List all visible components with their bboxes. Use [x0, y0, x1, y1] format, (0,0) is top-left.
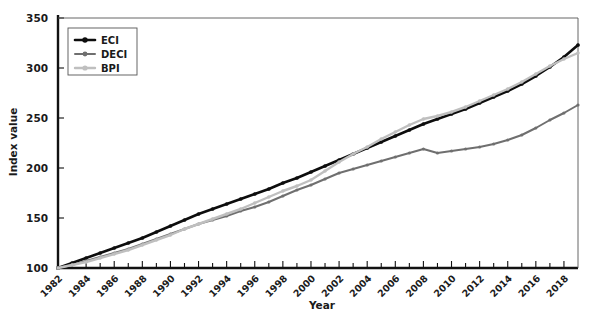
- data-point-eci: [422, 122, 426, 126]
- x-axis-tick-label: 2010: [431, 272, 458, 299]
- data-point-eci: [267, 187, 271, 191]
- data-point-bpi: [337, 160, 341, 164]
- data-point-eci: [295, 176, 299, 180]
- data-point-bpi: [379, 137, 383, 141]
- data-point-deci: [576, 103, 579, 106]
- x-axis-tick-label: 1990: [150, 272, 177, 299]
- legend-marker-bpi: [82, 65, 87, 70]
- data-point-bpi: [450, 110, 454, 114]
- legend-label-deci: DECI: [101, 49, 127, 60]
- data-point-deci: [464, 147, 467, 150]
- data-point-bpi: [534, 72, 538, 76]
- data-point-deci: [309, 183, 312, 186]
- data-point-deci: [267, 200, 270, 203]
- data-point-deci: [338, 171, 341, 174]
- y-axis-tick-label: 300: [26, 62, 48, 74]
- data-point-deci: [380, 159, 383, 162]
- data-point-deci: [506, 138, 509, 141]
- x-axis-tick-label: 2012: [460, 273, 486, 299]
- y-axis-tick-label: 250: [26, 112, 48, 124]
- data-point-bpi: [365, 145, 369, 149]
- data-point-eci: [126, 241, 130, 245]
- y-axis-tick-label: 200: [26, 162, 48, 174]
- data-point-bpi: [295, 184, 299, 188]
- data-point-eci: [253, 192, 257, 196]
- series-line-bpi: [58, 53, 578, 268]
- y-axis-tick-label: 100: [26, 262, 48, 274]
- data-point-bpi: [506, 87, 510, 91]
- x-axis-tick-label: 1986: [94, 272, 121, 299]
- data-point-deci: [450, 149, 453, 152]
- line-chart: 100150200250300350 198219841986198819901…: [0, 0, 589, 320]
- x-axis-tick-label: 1998: [263, 272, 290, 299]
- data-point-eci: [155, 230, 159, 234]
- data-point-bpi: [70, 263, 74, 267]
- data-point-deci: [352, 167, 355, 170]
- x-axis-tick-label: 1992: [178, 273, 204, 299]
- data-point-bpi: [576, 51, 580, 55]
- x-axis-tick-label: 2006: [375, 272, 402, 299]
- x-axis-tick-label: 2008: [403, 272, 430, 299]
- data-point-eci: [393, 134, 397, 138]
- series-layer: [56, 43, 580, 270]
- data-point-bpi: [422, 117, 426, 121]
- data-point-bpi: [112, 252, 116, 256]
- data-point-bpi: [478, 99, 482, 103]
- x-axis-tick-label: 1982: [38, 273, 64, 299]
- data-point-deci: [562, 111, 565, 114]
- y-axis: 100150200250300350: [26, 12, 64, 274]
- data-point-deci: [394, 155, 397, 158]
- data-point-deci: [281, 194, 284, 197]
- data-point-bpi: [464, 105, 468, 109]
- series-line-deci: [58, 105, 578, 268]
- x-axis-tick-label: 2014: [488, 272, 515, 299]
- data-point-eci: [112, 246, 116, 250]
- data-point-deci: [520, 133, 523, 136]
- data-point-bpi: [169, 233, 173, 237]
- x-axis-tick-label: 1984: [66, 272, 93, 299]
- x-axis-tick-label: 2000: [291, 272, 318, 299]
- data-point-bpi: [520, 80, 524, 84]
- legend-label-eci: ECI: [101, 35, 119, 46]
- data-point-bpi: [436, 114, 440, 118]
- data-point-bpi: [211, 217, 215, 221]
- data-point-bpi: [492, 93, 496, 97]
- data-point-bpi: [239, 207, 243, 211]
- legend-marker-eci: [82, 37, 87, 42]
- data-point-bpi: [351, 152, 355, 156]
- data-point-deci: [366, 163, 369, 166]
- data-point-eci: [323, 164, 327, 168]
- chart-canvas: 100150200250300350 198219841986198819901…: [0, 0, 589, 320]
- x-axis-title: Year: [308, 299, 336, 311]
- data-point-eci: [408, 128, 412, 132]
- x-axis: 1982198419861988199019921994199619982000…: [38, 261, 578, 299]
- y-axis-tick-label: 150: [26, 212, 48, 224]
- x-axis-tick-label: 2018: [544, 272, 571, 299]
- data-point-bpi: [394, 130, 398, 134]
- data-point-bpi: [56, 266, 60, 270]
- data-point-deci: [548, 118, 551, 121]
- data-point-bpi: [408, 123, 412, 127]
- data-point-bpi: [309, 178, 313, 182]
- data-point-deci: [492, 142, 495, 145]
- data-point-eci: [225, 202, 229, 206]
- data-point-eci: [140, 236, 144, 240]
- data-point-bpi: [98, 256, 102, 260]
- data-point-bpi: [141, 243, 145, 247]
- chart-legend: ECIDECIBPI: [68, 28, 137, 75]
- legend-marker-deci: [83, 52, 88, 57]
- x-axis-tick-label: 1994: [207, 272, 234, 299]
- data-point-eci: [169, 224, 173, 228]
- data-point-deci: [323, 177, 326, 180]
- data-point-bpi: [183, 227, 187, 231]
- x-axis-tick-label: 2016: [516, 272, 543, 299]
- data-point-eci: [183, 218, 187, 222]
- data-point-bpi: [323, 169, 327, 173]
- data-point-bpi: [127, 248, 131, 252]
- data-point-bpi: [155, 238, 159, 242]
- data-point-bpi: [562, 57, 566, 61]
- x-axis-tick-label: 2002: [319, 273, 345, 299]
- x-axis-tick-label: 1996: [235, 272, 262, 299]
- data-point-eci: [84, 256, 88, 260]
- data-point-eci: [98, 251, 102, 255]
